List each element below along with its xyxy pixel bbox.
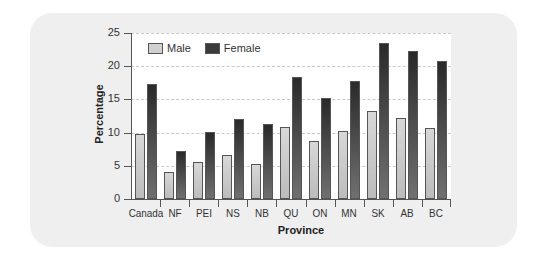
x-tick-mark — [335, 199, 336, 207]
bar-male-nf — [164, 172, 174, 199]
x-tick-mark — [422, 199, 423, 207]
x-tick-label: ON — [307, 207, 334, 219]
bar-female-pei — [205, 132, 215, 199]
x-tick-mark — [218, 199, 219, 207]
legend: Male Female — [148, 42, 269, 54]
y-tick-label: 25 — [100, 26, 120, 38]
bar-female-bc — [437, 61, 447, 199]
bar-male-sk — [367, 111, 377, 199]
bar-female-mn — [350, 81, 360, 199]
y-tick-mark — [124, 66, 131, 67]
gridline — [131, 66, 451, 67]
x-tick-label: AB — [394, 207, 421, 219]
bar-male-on — [309, 141, 319, 199]
x-tick-label: NB — [248, 207, 275, 219]
y-tick-label: 5 — [100, 159, 120, 171]
y-tick-mark — [124, 99, 131, 100]
x-tick-mark — [276, 199, 277, 207]
y-tick-label: 0 — [100, 192, 120, 204]
bar-male-nb — [251, 164, 261, 199]
bar-male-pei — [193, 162, 203, 199]
bar-female-nf — [176, 151, 186, 199]
x-tick-label: SK — [365, 207, 392, 219]
bar-male-ns — [222, 155, 232, 199]
bar-male-qu — [280, 127, 290, 199]
y-tick-label: 20 — [100, 59, 120, 71]
legend-label-female: Female — [224, 42, 261, 54]
legend-item-male: Male — [148, 42, 191, 54]
x-tick-mark — [393, 199, 394, 207]
x-tick-label: PEI — [190, 207, 217, 219]
x-tick-mark — [450, 199, 451, 207]
y-axis-title: Percentage — [93, 79, 105, 149]
x-tick-label: Canada — [128, 207, 164, 219]
x-tick-label: QU — [278, 207, 305, 219]
x-tick-label: NF — [161, 207, 188, 219]
bar-female-canada — [147, 84, 157, 199]
x-tick-mark — [189, 199, 190, 207]
bar-female-sk — [379, 43, 389, 199]
x-tick-mark — [306, 199, 307, 207]
bar-male-bc — [425, 128, 435, 199]
bar-female-ns — [234, 119, 244, 199]
x-tick-mark — [247, 199, 248, 207]
y-tick-mark — [124, 166, 131, 167]
x-tick-mark — [364, 199, 365, 207]
x-tick-label: NS — [219, 207, 246, 219]
bar-male-mn — [338, 131, 348, 199]
x-axis — [131, 199, 451, 200]
x-tick-label: BC — [423, 207, 450, 219]
y-tick-mark — [124, 199, 131, 200]
gridline — [131, 33, 451, 34]
bar-female-nb — [263, 124, 273, 199]
bar-male-canada — [135, 134, 145, 199]
bar-female-on — [321, 98, 331, 199]
x-tick-label: MN — [336, 207, 363, 219]
legend-item-female: Female — [205, 42, 261, 54]
bar-male-ab — [396, 118, 406, 199]
legend-label-male: Male — [167, 42, 191, 54]
female-swatch-icon — [205, 43, 220, 54]
y-axis — [131, 33, 132, 200]
gridline — [131, 99, 451, 100]
bar-female-qu — [292, 77, 302, 199]
bar-female-ab — [408, 51, 418, 199]
y-tick-mark — [124, 33, 131, 34]
male-swatch-icon — [148, 43, 163, 54]
x-tick-mark — [160, 199, 161, 207]
y-tick-mark — [124, 133, 131, 134]
x-axis-title: Province — [271, 224, 331, 236]
